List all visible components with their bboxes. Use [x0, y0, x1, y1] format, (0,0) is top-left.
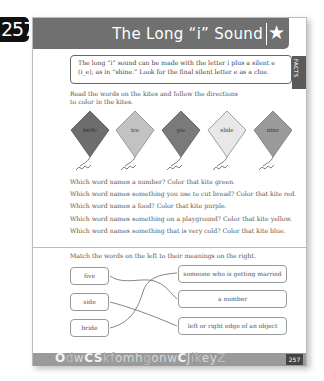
match-right-number[interactable]: a number: [178, 290, 287, 308]
kite-word: ice: [115, 127, 155, 133]
question-3: Which word names a food? Color that kite…: [70, 200, 305, 212]
question-5: Which word names something that is very …: [70, 225, 305, 237]
match-right-edge[interactable]: left or right edge of an object: [178, 317, 287, 335]
match-left-side[interactable]: side: [70, 293, 109, 311]
kite-nine[interactable]: nine: [253, 110, 293, 176]
question-4: Which word names something on a playgrou…: [70, 213, 305, 225]
kite-knife[interactable]: knife: [70, 110, 110, 176]
footer-page-number: 257: [286, 354, 303, 365]
kite-pie[interactable]: pie: [161, 110, 201, 176]
instructions-line2: to color in the kites.: [70, 98, 290, 106]
kite-word: slide: [207, 127, 247, 133]
kite-icon: [253, 110, 293, 176]
header-bar: The Long “i” Sound ★: [33, 18, 289, 49]
matching-title: Match the words on the left to their mea…: [70, 252, 256, 259]
facts-text-line1: The long “i” sound can be made with the …: [78, 58, 284, 67]
kite-instructions: Read the words on the kites and follow t…: [70, 90, 290, 106]
match-left-five[interactable]: five: [70, 267, 109, 285]
header-divider: [266, 23, 267, 45]
matching-lines: [109, 264, 179, 339]
kite-icon: [207, 110, 247, 176]
page-title: The Long “i” Sound: [112, 25, 263, 43]
kite-word: pie: [161, 127, 201, 133]
section-divider: [33, 247, 306, 248]
kite-word: knife: [70, 127, 110, 133]
question-2: Which word names something you use to cu…: [70, 188, 305, 200]
kite-ice[interactable]: ice: [115, 110, 155, 176]
kites-row: knife ice pie slide: [70, 110, 295, 176]
facts-tab: FACTS: [292, 56, 306, 89]
kite-icon: [115, 110, 155, 176]
match-right-married[interactable]: someone who is getting married: [178, 265, 287, 283]
facts-box: The long “i” sound can be made with the …: [70, 55, 292, 84]
kite-icon: [161, 110, 201, 176]
facts-text-line2: (i_e), as in “shine.” Look for the final…: [78, 67, 284, 76]
worksheet-page: The Long “i” Sound ★ The long “i” sound …: [32, 17, 307, 366]
facts-tab-label: FACTS: [293, 59, 299, 78]
kite-icon: [70, 110, 110, 176]
instructions-line1: Read the words on the kites and follow t…: [70, 90, 290, 98]
match-left-bride[interactable]: bride: [70, 319, 109, 337]
kite-word: nine: [253, 127, 293, 133]
page-number-badge: 257: [0, 17, 29, 42]
question-1: Which word names a number? Color that ki…: [70, 176, 305, 188]
kite-slide[interactable]: slide: [207, 110, 247, 176]
kite-questions: Which word names a number? Color that ki…: [70, 176, 305, 237]
star-icon: ★: [268, 23, 286, 41]
footer-band: OdwCSkfomhgonwCJikeyZ 257: [33, 353, 306, 366]
footer-decorative-letters: OdwCSkfomhgonwCJikeyZ: [55, 351, 226, 365]
